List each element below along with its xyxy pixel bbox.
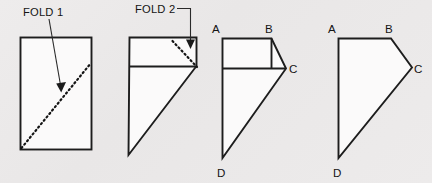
diagram-canvas: FOLD 1 FOLD 2 A B C D A B C D — [0, 0, 432, 183]
fold1-label: FOLD 1 — [23, 6, 63, 18]
step3-folded-shape — [223, 39, 287, 159]
step-3-group — [223, 39, 287, 159]
step3-vertex-label-a: A — [212, 22, 220, 35]
fold2-leader-line — [177, 9, 191, 42]
step4-vertex-label-d: D — [333, 166, 341, 179]
step4-vertex-label-c: C — [414, 62, 422, 75]
step3-vertex-label-b: B — [265, 22, 273, 35]
step3-vertex-label-c: C — [289, 62, 297, 75]
step4-vertex-label-a: A — [328, 22, 336, 35]
step3-vertex-label-d: D — [217, 166, 225, 179]
step-2-group — [129, 38, 198, 156]
folding-diagram-figure: FOLD 1 FOLD 2 A B C D A B C D — [0, 0, 432, 183]
step4-final-shape — [339, 39, 413, 159]
step1-rectangle — [21, 38, 92, 150]
fold2-label: FOLD 2 — [135, 3, 175, 15]
step4-vertex-label-b: B — [385, 22, 393, 35]
step-1-group — [21, 38, 92, 150]
step-4-group — [339, 39, 413, 159]
